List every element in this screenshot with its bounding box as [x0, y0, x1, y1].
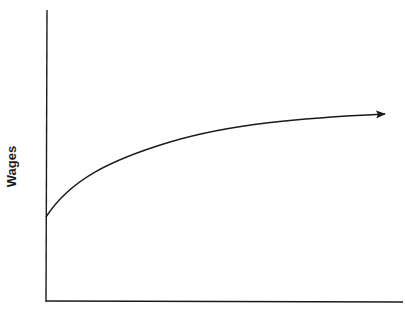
y-axis-label-text: Wages	[5, 145, 20, 186]
wage-curve	[46, 114, 385, 217]
wages-diagram	[0, 0, 405, 315]
x-axis	[46, 301, 403, 302]
y-axis	[46, 10, 47, 302]
y-axis-label: Wages	[0, 136, 24, 196]
